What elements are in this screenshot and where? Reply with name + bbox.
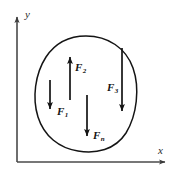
force-label-F3-letter: F (107, 81, 114, 93)
force-label-F3-subscript: 3 (115, 87, 119, 95)
x-axis-label: x (158, 145, 163, 156)
force-label-F1: F1 (57, 106, 68, 119)
force-label-F2-letter: F (75, 61, 82, 73)
force-label-Fn: Fn (93, 130, 105, 143)
force-label-Fn-subscript: n (101, 135, 105, 143)
force-label-F2: F2 (75, 62, 86, 75)
force-label-Fn-letter: F (93, 129, 100, 141)
force-label-F3: F3 (107, 82, 118, 95)
force-label-F1-subscript: 1 (65, 111, 69, 119)
diagram-canvas (0, 0, 175, 189)
force-label-F1-letter: F (57, 105, 64, 117)
force-label-F2-subscript: 2 (83, 67, 87, 75)
force-diagram-figure: F1 F2 F3 Fn y x (0, 0, 175, 189)
y-axis-label: y (25, 9, 30, 20)
